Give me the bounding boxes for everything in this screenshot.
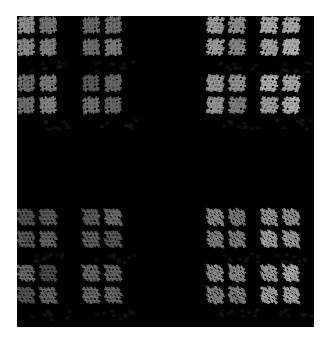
image-stage — [0, 0, 329, 344]
fractal-image — [17, 16, 314, 327]
fractal-canvas — [17, 16, 314, 327]
